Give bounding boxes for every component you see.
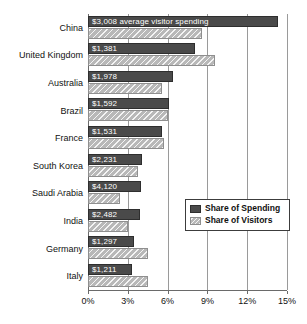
category-label-brazil: Brazil xyxy=(0,106,83,116)
bar-share-of-spending: $1,211 xyxy=(88,264,132,275)
x-tick-9pct xyxy=(207,291,208,294)
bar-share-of-visitors xyxy=(88,83,162,94)
category-label-south-korea: South Korea xyxy=(0,161,83,171)
category-label-india: India xyxy=(0,216,83,226)
bar-share-of-visitors xyxy=(88,276,148,287)
category-label-china: China xyxy=(0,23,83,33)
bar-row: $3,008 average visitor spending xyxy=(88,14,287,42)
bar-share-of-spending: $4,120 xyxy=(88,181,141,192)
bar-value-label: $4,120 xyxy=(92,182,117,191)
bar-share-of-spending: $1,297 xyxy=(88,236,134,247)
x-tick-15pct xyxy=(287,291,288,294)
bar-row: $1,592 xyxy=(88,97,287,125)
y-axis-category-labels: ChinaUnited KingdomAustraliaBrazilFrance… xyxy=(0,14,83,290)
bar-share-of-spending: $1,531 xyxy=(88,126,162,137)
bar-share-of-spending: $3,008 average visitor spending xyxy=(88,16,278,27)
legend-item-visitors: Share of Visitors xyxy=(190,215,285,226)
legend-item-spending: Share of Spending xyxy=(190,203,285,214)
bar-row: $1,978 xyxy=(88,69,287,97)
x-tick-3pct xyxy=(128,291,129,294)
bar-row: $2,231 xyxy=(88,152,287,180)
bar-rows: $3,008 average visitor spending$1,381$1,… xyxy=(88,14,287,290)
bar-share-of-spending: $1,381 xyxy=(88,43,195,54)
legend-label-spending: Share of Spending xyxy=(205,204,280,213)
gridline-15pct xyxy=(287,14,288,290)
bar-row: $1,297 xyxy=(88,235,287,263)
bar-value-label: $3,008 average visitor spending xyxy=(92,17,209,26)
bar-share-of-spending: $2,231 xyxy=(88,154,142,165)
bar-share-of-spending: $1,592 xyxy=(88,98,169,109)
category-label-saudi-arabia: Saudi Arabia xyxy=(0,188,83,198)
bar-row: $1,211 xyxy=(88,262,287,290)
x-tick-label-9pct: 9% xyxy=(192,296,222,306)
x-tick-label-0pct: 0% xyxy=(73,296,103,306)
bar-share-of-visitors xyxy=(88,138,164,149)
bar-value-label: $2,482 xyxy=(92,210,117,219)
x-axis-line xyxy=(88,290,287,291)
bar-chart: ChinaUnited KingdomAustraliaBrazilFrance… xyxy=(0,0,307,324)
bar-share-of-visitors xyxy=(88,166,138,177)
bar-value-label: $2,231 xyxy=(92,155,117,164)
category-label-australia: Australia xyxy=(0,78,83,88)
legend-label-visitors: Share of Visitors xyxy=(205,216,272,225)
bar-value-label: $1,592 xyxy=(92,99,117,108)
x-tick-label-12pct: 12% xyxy=(232,296,262,306)
x-tick-0pct xyxy=(88,291,89,294)
category-label-italy: Italy xyxy=(0,271,83,281)
bar-share-of-visitors xyxy=(88,248,148,259)
x-tick-label-6pct: 6% xyxy=(153,296,183,306)
bar-share-of-visitors xyxy=(88,55,215,66)
bar-row: $1,531 xyxy=(88,124,287,152)
category-label-germany: Germany xyxy=(0,244,83,254)
dark-solid-swatch-icon xyxy=(190,205,201,213)
bar-share-of-visitors xyxy=(88,110,168,121)
bar-value-label: $1,297 xyxy=(92,237,117,246)
bar-share-of-spending: $1,978 xyxy=(88,71,173,82)
plot-area: $3,008 average visitor spending$1,381$1,… xyxy=(88,14,287,290)
bar-value-label: $1,211 xyxy=(92,265,116,274)
x-tick-6pct xyxy=(168,291,169,294)
bar-value-label: $1,978 xyxy=(92,72,117,81)
bar-value-label: $1,381 xyxy=(92,44,117,53)
x-tick-label-3pct: 3% xyxy=(113,296,143,306)
chart-legend: Share of Spending Share of Visitors xyxy=(185,199,290,231)
bar-share-of-visitors xyxy=(88,28,202,39)
light-hatched-swatch-icon xyxy=(190,217,201,225)
x-tick-label-15pct: 15% xyxy=(272,296,302,306)
category-label-france: France xyxy=(0,133,83,143)
x-tick-12pct xyxy=(247,291,248,294)
bar-share-of-visitors xyxy=(88,221,128,232)
bar-row: $1,381 xyxy=(88,42,287,70)
bar-share-of-spending: $2,482 xyxy=(88,209,140,220)
category-label-united-kingdom: United Kingdom xyxy=(0,50,83,60)
bar-value-label: $1,531 xyxy=(92,127,117,136)
bar-share-of-visitors xyxy=(88,193,120,204)
